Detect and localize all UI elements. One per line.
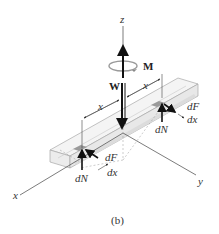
free-body-diagram: z M W x x dF dx dN dF dx dN x y (b) xyxy=(0,0,219,234)
dN-left-label: dN xyxy=(75,172,88,184)
y-axis-line xyxy=(123,133,196,175)
bar-prism xyxy=(50,78,198,168)
dimension-x-right-label: x xyxy=(143,79,148,91)
figure-caption: (b) xyxy=(111,214,124,226)
dF-right-label: dF xyxy=(187,100,199,112)
y-axis-label: y xyxy=(198,175,203,187)
dx-right-label: dx xyxy=(187,113,197,125)
dx-left-label: dx xyxy=(107,166,117,178)
z-axis-label: z xyxy=(120,13,124,25)
weight-label: W xyxy=(109,80,120,92)
dN-right-label: dN xyxy=(155,123,168,135)
moment-label: M xyxy=(143,60,153,72)
x-axis-label: x xyxy=(13,189,18,201)
dimension-x-left-label: x xyxy=(98,100,103,112)
dx-dim-right xyxy=(178,114,184,118)
dF-left-label: dF xyxy=(105,151,117,163)
